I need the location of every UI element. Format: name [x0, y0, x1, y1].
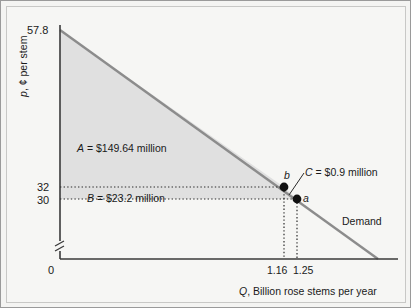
- area-a-symbol: A: [77, 142, 84, 154]
- area-a-label: A = $149.64 million: [77, 143, 167, 154]
- x-tick-label-1-16: 1.16: [267, 265, 287, 276]
- demand-curve-plot: [1, 1, 411, 308]
- x-axis-title-rest: , Billion rose stems per year: [247, 285, 377, 297]
- y-tick-label-30: 30: [37, 195, 49, 206]
- figure-container: p, ¢ per stem 57.8 32 30 0 1.16 1.25 Q, …: [0, 0, 411, 308]
- y-axis-title-rest: , ¢ per stem: [17, 36, 29, 91]
- area-c-leader-line: [289, 173, 304, 195]
- point-a-label: a: [303, 193, 309, 204]
- area-b-symbol: B: [87, 192, 94, 204]
- y-axis-break-icon: [55, 241, 64, 251]
- y-tick-label-32: 32: [37, 182, 49, 193]
- x-axis-title: Q, Billion rose stems per year: [239, 286, 377, 297]
- x-tick-label-1-25: 1.25: [293, 265, 313, 276]
- data-point-a[interactable]: [293, 195, 302, 204]
- origin-label: 0: [48, 265, 54, 276]
- y-axis-title-symbol: p: [17, 91, 29, 97]
- demand-curve-label: Demand: [342, 216, 382, 227]
- area-c-text: = $0.9 million: [313, 166, 378, 178]
- y-tick-label-57-8: 57.8: [27, 25, 48, 36]
- area-a-text: = $149.64 million: [84, 142, 167, 154]
- area-b-text: = $23.2 million: [94, 192, 165, 204]
- point-b-label: b: [284, 170, 290, 181]
- area-c-symbol: C: [305, 166, 313, 178]
- data-point-b[interactable]: [280, 183, 289, 192]
- area-b-label: B = $23.2 million: [87, 193, 165, 204]
- x-axis-title-symbol: Q: [239, 285, 247, 297]
- area-c-label: C = $0.9 million: [305, 167, 378, 178]
